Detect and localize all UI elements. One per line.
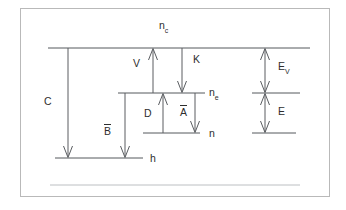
arrow-D [159, 94, 168, 134]
arrow-C [64, 48, 73, 158]
label-h: h [150, 153, 156, 164]
label-A-bar: A [180, 107, 187, 118]
label-nc: nc [159, 20, 168, 33]
figure-canvas: nc C V K ne D A n B h EV E [0, 0, 346, 210]
label-ne: ne [209, 87, 219, 100]
label-E: E [278, 106, 285, 117]
label-K: K [193, 54, 200, 65]
label-n: n [209, 128, 215, 139]
arrow-E-V [261, 49, 270, 93]
label-EV: EV [278, 61, 290, 74]
arrow-K [178, 48, 187, 93]
label-C: C [44, 96, 52, 107]
arrow-E [261, 94, 270, 133]
arrow-A-bar [191, 93, 200, 133]
label-V: V [133, 58, 140, 69]
label-B-bar: B [104, 126, 111, 137]
arrow-V [149, 49, 158, 94]
arrow-B-bar [121, 93, 130, 158]
label-D: D [144, 108, 152, 119]
